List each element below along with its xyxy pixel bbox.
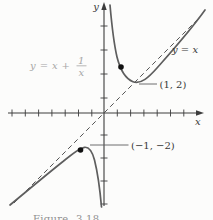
fraction-denominator: x bbox=[78, 67, 84, 78]
point-dot-neg1-neg2 bbox=[78, 147, 84, 153]
equation-prefix: y = x + bbox=[29, 60, 70, 71]
y-axis-arrow-icon bbox=[101, 2, 106, 10]
point2-label: (−1, −2) bbox=[131, 140, 175, 151]
point-dot-1-2 bbox=[118, 64, 124, 70]
curve-left-branch bbox=[10, 147, 102, 207]
x-axis-arrow-icon bbox=[196, 110, 204, 115]
figure-caption: Figure 3.18 bbox=[33, 214, 99, 220]
fraction-numerator: 1 bbox=[78, 55, 85, 66]
asymptote-label: y = x bbox=[171, 44, 198, 55]
graph-svg: y x y = x (1, 2) (−1, −2) y = x + 1 x bbox=[0, 0, 213, 220]
equation-label: y = x + 1 x bbox=[29, 55, 87, 78]
y-axis-label: y bbox=[92, 1, 99, 12]
point1-label: (1, 2) bbox=[160, 79, 187, 90]
figure-canvas: y x y = x (1, 2) (−1, −2) y = x + 1 x Fi… bbox=[0, 0, 213, 220]
x-axis-label: x bbox=[195, 116, 201, 127]
